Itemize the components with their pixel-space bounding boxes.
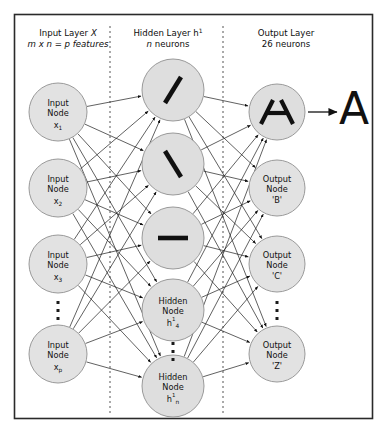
- output-node-b-line1: Output: [263, 174, 292, 184]
- input-node-x3-line1: Input: [47, 250, 69, 260]
- hidden-node-n-line2: Node: [162, 382, 183, 392]
- input-node-x2: InputNodex2: [29, 159, 87, 217]
- input-node-xp: InputNodexp: [29, 325, 87, 383]
- hidden-layer-header-line2: n neurons: [147, 39, 190, 49]
- output-node-a: [249, 84, 305, 140]
- output-node-z: OutputNode'Z': [249, 326, 305, 382]
- hidden-node-4-line1: Hidden: [158, 296, 187, 306]
- output-layer-header-line2: 26 neurons: [262, 39, 311, 49]
- hidden-node-2: [142, 133, 204, 195]
- input-node-x1-line2: Node: [47, 108, 68, 118]
- input-ellipsis: [57, 301, 60, 320]
- input-node-x1-line1: Input: [47, 98, 69, 108]
- output-node-c: OutputNode'C': [249, 236, 305, 292]
- hidden-layer-header-line1: Hidden Layer h1: [133, 27, 202, 39]
- hidden-node-n: HiddenNodeh1n: [142, 355, 204, 417]
- hidden-layer-nodes: HiddenNodeh14HiddenNodeh1n: [142, 59, 204, 417]
- input-node-xp-line2: Node: [47, 350, 68, 360]
- output-node-z-line2: Node: [266, 350, 287, 360]
- input-layer-header-line2: m x n = p features: [28, 39, 109, 49]
- output-node-c-line3: 'C': [272, 271, 282, 281]
- input-node-x3-line2: Node: [47, 260, 68, 270]
- hidden-node-4-line2: Node: [162, 306, 183, 316]
- output-layer-header-line1: Output Layer: [258, 28, 315, 38]
- hidden-ellipsis: [172, 342, 175, 361]
- input-node-x1: InputNodex1: [29, 83, 87, 141]
- output-node-z-line1: Output: [263, 340, 292, 350]
- layer-headers: Input Layer Xm x n = p featuresHidden La…: [28, 27, 315, 50]
- output-node-z-line3: 'Z': [272, 361, 282, 371]
- input-node-xp-line1: Input: [47, 340, 69, 350]
- output-ellipsis: [276, 301, 279, 320]
- output-node-b: OutputNode'B': [249, 160, 305, 216]
- output-node-b-line3: 'B': [272, 195, 282, 205]
- neural-network-diagram: InputNodex1InputNodex2InputNodex3InputNo…: [0, 0, 387, 436]
- hidden-node-3: [142, 207, 204, 269]
- output-node-c-line2: Node: [266, 260, 287, 270]
- output-node-b-line2: Node: [266, 184, 287, 194]
- diagram-canvas: InputNodex1InputNodex2InputNodex3InputNo…: [0, 0, 387, 436]
- input-node-x2-line2: Node: [47, 184, 68, 194]
- output-node-c-line1: Output: [263, 250, 292, 260]
- input-layer-header-line1: Input Layer X: [39, 28, 98, 38]
- hidden-node-n-line1: Hidden: [158, 372, 187, 382]
- hidden-node-1: [142, 59, 204, 121]
- input-node-x2-line1: Input: [47, 174, 69, 184]
- input-node-x3: InputNodex3: [29, 235, 87, 293]
- prediction-letter: A: [339, 83, 369, 134]
- hidden-node-4: HiddenNodeh14: [142, 279, 204, 341]
